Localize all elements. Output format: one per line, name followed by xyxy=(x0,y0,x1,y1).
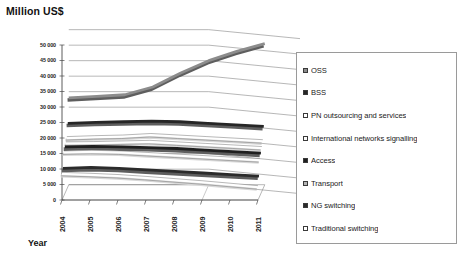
y-axis-tick-label: 15 000 xyxy=(22,150,56,156)
legend-item-label: Transport xyxy=(311,179,343,188)
y-axis-tick-label: 30 000 xyxy=(22,104,56,110)
y-axis-tick-label: 40 000 xyxy=(22,73,56,79)
x-axis-tick-label: 2007 xyxy=(142,217,151,232)
x-axis-title: Year xyxy=(28,238,47,248)
series-lines xyxy=(61,44,265,190)
y-axis-tick-label: 50 000 xyxy=(22,42,56,48)
legend-item[interactable]: NG switching xyxy=(303,195,452,218)
legend-item-label: PN outsourcing and services xyxy=(311,111,406,120)
legend-item[interactable]: Traditional switching xyxy=(303,217,452,240)
legend-item-label: BSS xyxy=(311,88,326,97)
legend-item-label: Access xyxy=(311,156,335,165)
legend-item-label: International networks signalling xyxy=(311,134,417,143)
legend-item-label: NG switching xyxy=(311,201,355,210)
y-axis-tick-label: 0 xyxy=(22,197,56,203)
legend-item[interactable]: Transport xyxy=(303,172,452,195)
x-axis-tick-label: 2010 xyxy=(226,217,235,232)
legend-item-label: OSS xyxy=(311,66,327,75)
legend-item[interactable]: BSS xyxy=(303,82,452,105)
y-axis-tick-label: 35 000 xyxy=(22,88,56,94)
legend-swatch-icon xyxy=(303,226,308,231)
x-axis-tick-label: 2005 xyxy=(86,217,95,232)
legend-swatch-icon xyxy=(303,68,308,73)
legend-item[interactable]: Access xyxy=(303,149,452,172)
legend-swatch-icon xyxy=(303,90,308,95)
legend-item[interactable]: OSS xyxy=(303,59,452,82)
y-axis-tick-label: 25 000 xyxy=(22,119,56,125)
legend-swatch-icon xyxy=(303,203,308,208)
x-axis-tick-label: 2009 xyxy=(198,217,207,232)
legend-item[interactable]: PN outsourcing and services xyxy=(303,104,452,127)
y-axis-tick-label: 5 000 xyxy=(22,181,56,187)
x-axis-tick-label: 2004 xyxy=(58,217,67,232)
legend-swatch-icon xyxy=(303,158,308,163)
y-axis-tick-label: 20 000 xyxy=(22,135,56,141)
legend: OSSBSSPN outsourcing and servicesInterna… xyxy=(296,52,457,244)
legend-swatch-icon xyxy=(303,181,308,186)
legend-item-label: Traditional switching xyxy=(311,224,378,233)
legend-swatch-icon xyxy=(303,113,308,118)
x-axis-tick-label: 2008 xyxy=(170,217,179,232)
x-axis-tick-label: 2006 xyxy=(114,217,123,232)
legend-item[interactable]: International networks signalling xyxy=(303,127,452,150)
x-axis-tick-label: 2011 xyxy=(254,217,263,232)
y-axis-tick-label: 45 000 xyxy=(22,57,56,63)
chart-root: Million US$ 05 00010 00015 00020 00025 0… xyxy=(0,0,464,266)
legend-swatch-icon xyxy=(303,136,308,141)
y-axis-tick-label: 10 000 xyxy=(22,166,56,172)
